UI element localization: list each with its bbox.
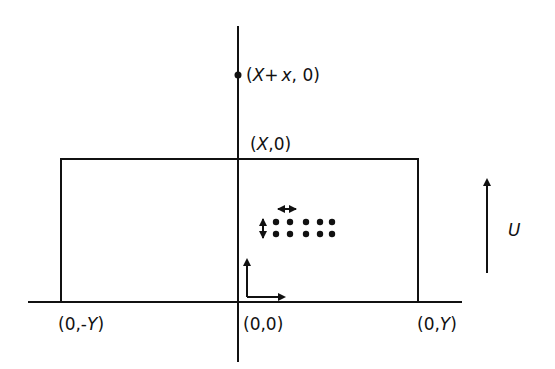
- label-right-corner: (0,Y): [417, 314, 457, 334]
- label-origin: (0,0): [243, 314, 283, 334]
- point-marker: [235, 72, 242, 79]
- label-top-point: (X+x, 0): [246, 65, 320, 85]
- diagram-canvas: (X+x, 0) (X,0) (0,0) (0,-Y) (0,Y) U: [0, 0, 555, 369]
- channel-rectangle: [61, 159, 418, 302]
- dot-array: [273, 219, 335, 237]
- label-rect-top: (X,0): [250, 134, 291, 154]
- label-flow-velocity: U: [508, 220, 521, 240]
- label-left-corner: (0,-Y): [58, 314, 104, 334]
